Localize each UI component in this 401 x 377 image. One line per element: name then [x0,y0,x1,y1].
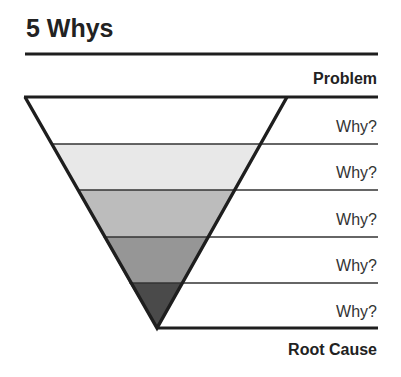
problem-label: Problem [313,70,377,88]
why-label-3: Why? [336,211,377,229]
root-cause-label: Root Cause [288,341,377,359]
why-label-2: Why? [336,164,377,182]
funnel-band-5 [130,283,183,328]
funnel-band-1 [25,97,287,144]
why-label-4: Why? [336,257,377,275]
why-label-1: Why? [336,118,377,136]
why-label-5: Why? [336,303,377,321]
funnel-band-2 [51,144,260,190]
